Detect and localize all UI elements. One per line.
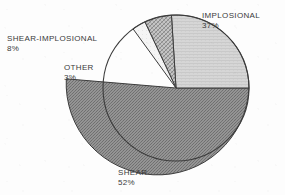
- pie-label-other: OTHER 3%: [64, 63, 94, 83]
- pie-label-shear-implosional: SHEAR-IMPLOSIONAL 8%: [7, 34, 97, 54]
- pie-label-implosional: IMPLOSIONAL 37%: [202, 11, 260, 31]
- pie-chart-figure: IMPLOSIONAL 37% SHEAR-IMPLOSIONAL 8% OTH…: [0, 0, 285, 195]
- pie-label-implosional-name: IMPLOSIONAL: [202, 11, 260, 20]
- pie-label-other-percent: 3%: [64, 73, 94, 83]
- pie-label-shear-implosional-percent: 8%: [7, 44, 97, 54]
- pie-label-other-name: OTHER: [64, 63, 94, 72]
- pie-label-shear-implosional-name: SHEAR-IMPLOSIONAL: [7, 34, 97, 43]
- pie-slice-shear: [66, 79, 249, 175]
- pie-label-implosional-percent: 37%: [202, 21, 260, 31]
- pie-label-shear-percent: 52%: [118, 178, 147, 188]
- chart-plot-area: IMPLOSIONAL 37% SHEAR-IMPLOSIONAL 8% OTH…: [0, 0, 285, 195]
- pie-label-shear-name: SHEAR: [118, 168, 147, 177]
- pie-label-shear: SHEAR 52%: [118, 168, 147, 188]
